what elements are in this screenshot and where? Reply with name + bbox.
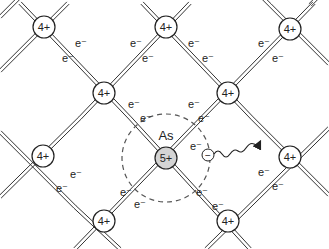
electron-labels: e⁻e⁻e⁻e⁻e⁻e⁻e⁻e⁻e⁻e⁻e⁻e⁻e⁻e⁻e⁻e⁻e⁻e⁻e⁻e⁻: [56, 37, 284, 212]
electron-label: e⁻: [196, 186, 208, 198]
bond-line: [1, 4, 69, 72]
electron-label: e⁻: [128, 98, 140, 110]
electron-label: e⁻: [272, 52, 284, 64]
bond-line: [259, 0, 269, 6]
arsenic-atom-label: 5+: [160, 152, 173, 164]
electron-label: e⁻: [120, 186, 132, 198]
silicon-atom-label: 4+: [222, 215, 235, 227]
electron-label: e⁻: [202, 52, 214, 64]
electron-label: e⁻: [258, 37, 270, 49]
lattice-svg: e⁻e⁻e⁻e⁻e⁻e⁻e⁻e⁻e⁻e⁻e⁻e⁻e⁻e⁻e⁻e⁻e⁻e⁻e⁻e⁻…: [0, 0, 329, 249]
electron-label: e⁻: [212, 200, 224, 212]
silicon-atom-label: 4+: [38, 21, 51, 33]
silicon-atom-label: 4+: [222, 87, 235, 99]
electron-label: e⁻: [62, 52, 74, 64]
dopant-element-label: As: [158, 128, 174, 143]
silicon-atom-label: 4+: [98, 87, 111, 99]
electron-label: e⁻: [258, 166, 270, 178]
bond-line: [0, 2, 67, 70]
electron-label: e⁻: [75, 37, 87, 49]
bond-line: [1, 131, 76, 206]
bond-line: [0, 0, 19, 16]
bond-line: [1, 0, 21, 18]
electron-label: e⁻: [142, 52, 154, 64]
diagram: e⁻e⁻e⁻e⁻e⁻e⁻e⁻e⁻e⁻e⁻e⁻e⁻e⁻e⁻e⁻e⁻e⁻e⁻e⁻e⁻…: [0, 0, 329, 249]
electron-label: e⁻: [56, 182, 68, 194]
bond-line: [76, 131, 191, 249]
bond-line: [311, 0, 321, 6]
silicon-atom-label: 4+: [284, 151, 297, 163]
electron-label: e⁻: [188, 37, 200, 49]
bond-line: [0, 133, 74, 208]
wavy-arrow-icon: [214, 142, 260, 157]
electron-label: e⁻: [198, 112, 210, 124]
silicon-atom-label: 4+: [37, 150, 50, 162]
silicon-atom-label: 4+: [160, 21, 173, 33]
free-electron-label: e⁻: [190, 140, 202, 152]
free-electron-symbol: −: [205, 150, 211, 161]
silicon-atom-label: 4+: [98, 215, 111, 227]
electron-label: e⁻: [140, 112, 152, 124]
electron-label: e⁻: [70, 168, 82, 180]
electron-label: e⁻: [188, 98, 200, 110]
electron-label: e⁻: [272, 180, 284, 192]
electron-label: e⁻: [130, 37, 142, 49]
silicon-atom-label: 4+: [284, 23, 297, 35]
electron-label: e⁻: [134, 198, 146, 210]
